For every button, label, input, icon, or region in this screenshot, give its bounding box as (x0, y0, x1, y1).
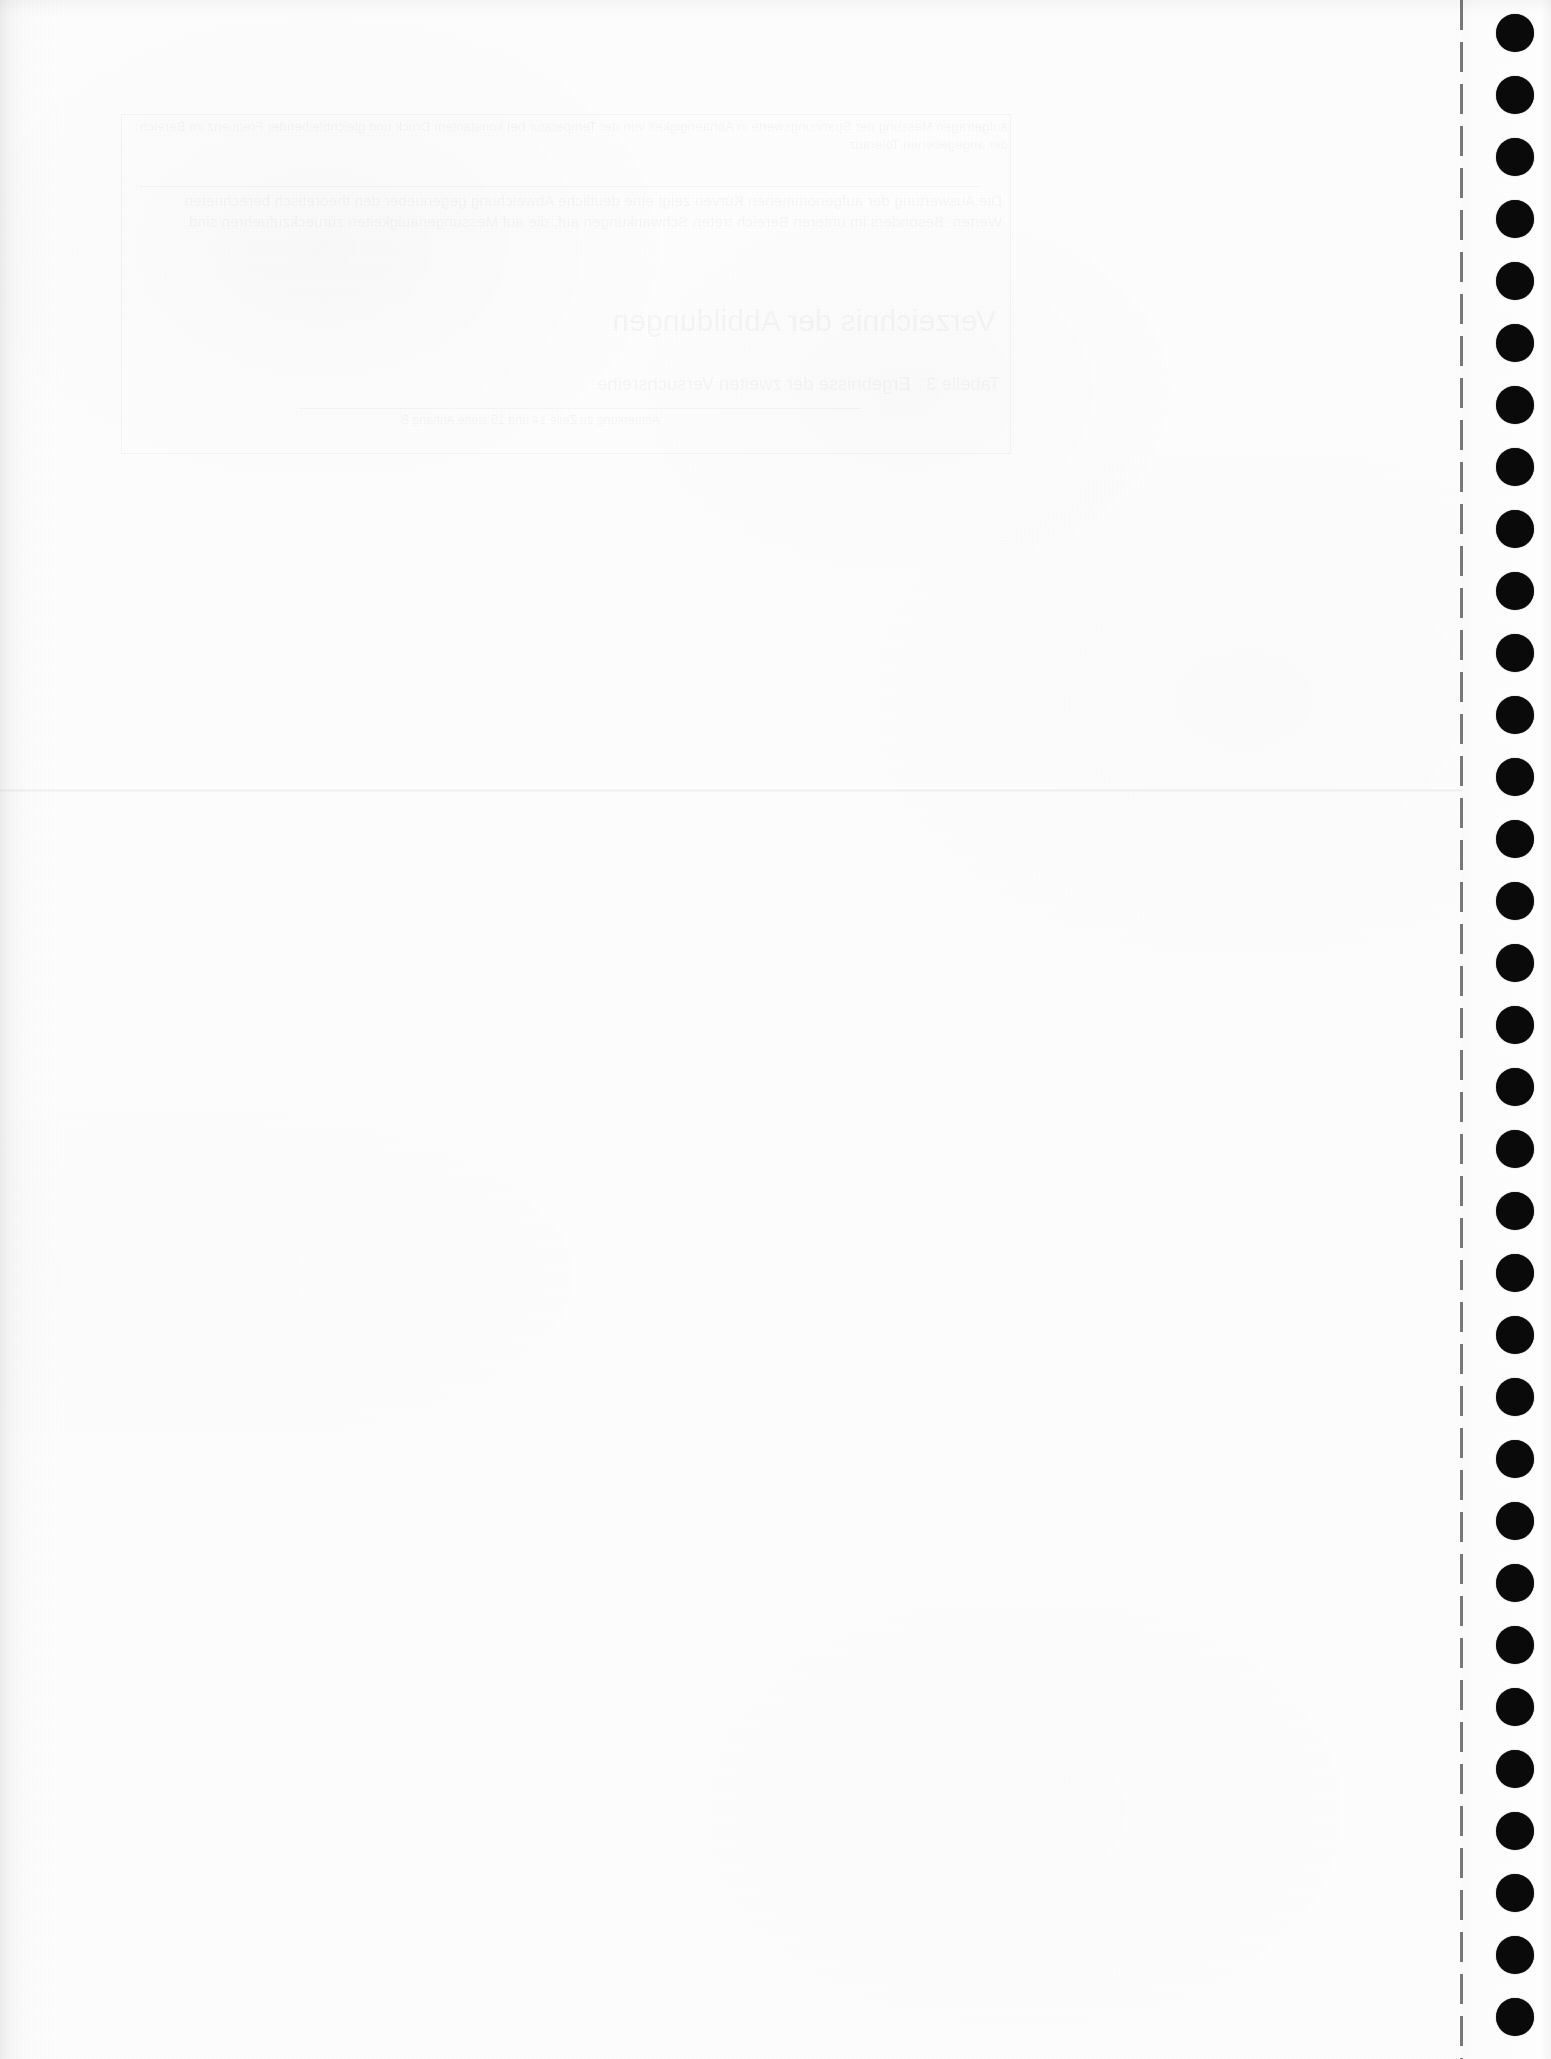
show-through-frame (121, 114, 1011, 454)
sprocket-hole (1496, 386, 1534, 424)
paper-mottle-texture (0, 0, 1462, 2059)
show-through-text: Die Auswertung der aufgenommenen Kurven … (132, 190, 1002, 310)
sprocket-hole (1496, 1998, 1534, 2036)
show-through-rule (140, 186, 980, 187)
sprocket-hole (1496, 1006, 1534, 1044)
sprocket-hole (1496, 1812, 1534, 1850)
sprocket-hole (1496, 1750, 1534, 1788)
sprocket-hole (1496, 76, 1534, 114)
paper-grain-texture (0, 0, 1462, 2059)
sprocket-hole (1496, 448, 1534, 486)
sprocket-hole (1496, 1068, 1534, 1106)
sprocket-hole (1496, 758, 1534, 796)
show-through-text: Verzeichnis der Abbildungen (336, 300, 996, 410)
show-through-rule (300, 408, 860, 409)
sprocket-hole (1496, 1192, 1534, 1230)
sprocket-hole (1496, 1626, 1534, 1664)
scanned-page: aufgetragen Messung der Spannungswerte i… (0, 0, 1551, 2059)
sprocket-hole (1496, 1874, 1534, 1912)
show-through-text: aufgetragen Messung der Spannungswerte i… (128, 118, 1008, 182)
sprocket-hole (1496, 1130, 1534, 1168)
sprocket-hole (1496, 820, 1534, 858)
sprocket-hole (1496, 200, 1534, 238)
sprocket-hole (1496, 1440, 1534, 1478)
sprocket-hole (1496, 572, 1534, 610)
sprocket-hole (1496, 944, 1534, 982)
sprocket-hole (1496, 324, 1534, 362)
sprocket-hole (1496, 634, 1534, 672)
sprocket-hole (1496, 1378, 1534, 1416)
sprocket-hole (1496, 696, 1534, 734)
sprocket-hole (1496, 262, 1534, 300)
sprocket-hole (1496, 138, 1534, 176)
sprocket-hole (1496, 1316, 1534, 1354)
sprocket-hole (1496, 510, 1534, 548)
sprocket-hole (1496, 1564, 1534, 1602)
sprocket-hole (1496, 1502, 1534, 1540)
show-through-text: Anmerkung zu Zeile 14 und 15 siehe Anhan… (160, 412, 660, 462)
show-through-text: Tabelle 3 Ergebnisse der zweiten Versuch… (300, 372, 1000, 452)
sprocket-hole (1496, 14, 1534, 52)
paper-sheet: aufgetragen Messung der Spannungswerte i… (0, 0, 1462, 2059)
sprocket-hole (1496, 1688, 1534, 1726)
sprocket-hole (1496, 882, 1534, 920)
sprocket-hole (1496, 1254, 1534, 1292)
sprocket-hole (1496, 1936, 1534, 1974)
